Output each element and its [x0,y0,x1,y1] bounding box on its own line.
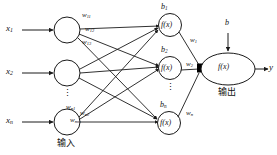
input-label-1-sub: 1 [10,27,13,33]
weight-label-wn1-sub: n1 [71,106,76,111]
output-weight-label-2-sub: 2 [191,63,193,68]
output-weight-label-3-sub: n [191,112,193,117]
hidden-activation-label-2: f(x) [161,64,172,72]
input-label-3-sub: n [10,119,13,125]
weight-label-wnm: wnm [70,117,80,125]
hidden-activation-label-1: f(x) [161,21,172,29]
weight-label-w12: w12 [85,26,94,34]
input-label-1: x1 [6,24,13,34]
network-graph-svg [0,0,277,155]
weight-label-w13: w13 [82,39,91,47]
weight-label-w11-sub: 11 [87,14,91,19]
input-layer-caption: 输入 [57,139,75,148]
hidden-bias-label-1: b1 [161,3,168,12]
weight-label-wnm-sub: nm [75,119,81,124]
input-node-2 [54,60,80,86]
hidden-bias-label-3-sub: n [164,103,167,109]
output-layer-caption: 输出 [218,88,236,97]
weight-label-w11: w11 [82,12,91,20]
output-activation-label: f(x) [218,63,229,71]
hidden-layer-ellipsis: ⋮ [165,86,175,89]
output-bias-label: b [225,19,229,27]
input-label-2-sub: 2 [10,70,13,76]
hidden-bias-label-2: b2 [161,46,168,55]
edge-i2-h1 [80,28,158,69]
output-weight-label-2: w2 [186,61,193,69]
edge-i2-h3 [79,78,157,119]
weight-label-wn2-sub: n2 [85,112,90,117]
input-label-3: xn [6,116,13,126]
hidden-bias-label-2-sub: 2 [165,48,168,54]
weight-label-wn2: wn2 [80,110,89,118]
hidden-activation-label-3: f(x) [160,119,171,127]
weight-label-w12-sub: 12 [90,28,95,33]
weight-label-w13-sub: 13 [87,41,92,46]
input-layer-ellipsis: ⋮ [62,92,72,95]
edge-h2-sum [181,69,199,70]
output-weight-label-1: w1 [190,37,197,45]
weight-label-wn1: wn1 [66,104,75,112]
input-node-1 [54,17,80,43]
input-label-2: x2 [6,67,13,77]
output-weight-label-3: wn [186,110,193,118]
output-label-y: y [269,63,273,72]
hidden-bias-label-1-sub: 1 [165,5,168,11]
edge-i1-h3 [78,38,157,119]
hidden-bias-label-3: bn [160,101,167,110]
neural-network-diagram: x1 x2 xn ⋮ 输入 w11 w12 w13 wn1 wn2 wnm b1… [0,0,277,155]
edge-i3-h2 [80,69,159,119]
output-weight-label-1-sub: 1 [195,39,197,44]
